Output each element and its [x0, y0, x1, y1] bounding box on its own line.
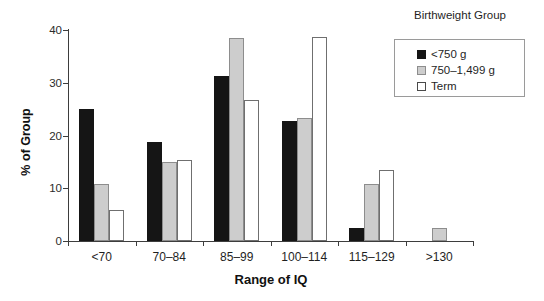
bar [109, 210, 124, 241]
bar [244, 100, 259, 241]
legend-swatch-icon [417, 50, 426, 59]
y-tick-label: 0 [34, 235, 62, 247]
bar [214, 76, 229, 241]
legend-swatch-icon [417, 82, 426, 91]
y-tick-label: 10 [34, 182, 62, 194]
legend-box: <750 g750–1,499 gTerm [394, 39, 525, 97]
y-tick-label: 20 [34, 130, 62, 142]
bar [147, 142, 162, 241]
bar [364, 184, 379, 241]
x-tick-label: 85–99 [220, 250, 253, 264]
bar [282, 121, 297, 241]
bar [79, 109, 94, 241]
x-tick-mark [271, 241, 272, 246]
x-tick-label: 100–114 [281, 250, 327, 264]
bar [432, 228, 447, 241]
bar [177, 160, 192, 241]
y-axis-title: % of Group [19, 72, 33, 212]
x-tick-mark [406, 241, 407, 246]
legend-item: <750 g [417, 46, 467, 62]
legend-item-label: <750 g [431, 48, 467, 60]
y-tick-label: 30 [34, 77, 62, 89]
bar [229, 38, 244, 241]
y-tick-label: 40 [34, 24, 62, 36]
x-tick-mark [473, 241, 474, 246]
x-tick-label: <70 [92, 250, 112, 264]
x-tick-label: 115–129 [349, 250, 395, 264]
legend-item-label: 750–1,499 g [431, 64, 495, 76]
x-tick-mark [338, 241, 339, 246]
x-tick-label: 70–84 [153, 250, 186, 264]
x-tick-mark [68, 241, 69, 246]
x-tick-mark [136, 241, 137, 246]
legend-item-label: Term [431, 80, 457, 92]
x-tick-mark [203, 241, 204, 246]
legend-swatch-icon [417, 66, 426, 75]
bar [379, 170, 394, 241]
x-tick-label: >130 [426, 250, 453, 264]
bar-chart: % of Group Range of IQ 010203040 <7070–8… [0, 0, 544, 301]
bar [162, 162, 177, 241]
x-axis-title: Range of IQ [68, 272, 474, 287]
legend-item: Term [417, 78, 457, 94]
legend-title: Birthweight Group [394, 9, 526, 21]
bar [94, 184, 109, 241]
bar [312, 37, 327, 241]
bar [297, 118, 312, 241]
bar [349, 228, 364, 241]
legend-item: 750–1,499 g [417, 62, 495, 78]
